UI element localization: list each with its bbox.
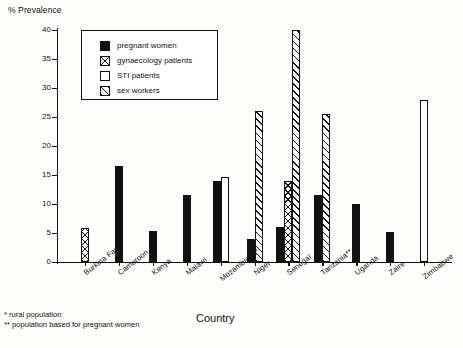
bar [221, 177, 229, 262]
x-axis-tick-mark [255, 262, 256, 266]
legend-swatch-sti-patients-icon [100, 71, 110, 81]
bar-group [247, 30, 263, 262]
y-axis-tick-label: 10 [29, 199, 51, 208]
legend-item-sti-patients: STI patients [100, 68, 217, 83]
y-axis-tick-mark [52, 146, 57, 147]
y-axis-tick-label: 30 [29, 83, 51, 92]
bar [386, 232, 394, 262]
legend-swatch-sex-workers-icon [100, 86, 110, 96]
x-axis-tick-mark [424, 262, 425, 266]
legend-item-gynaecology-patients: gynaecology patients [100, 53, 217, 68]
y-axis-tick-mark [52, 233, 57, 234]
footnote-pregnant-population: ** population based for pregnant women [4, 320, 140, 330]
y-axis-tick-mark [52, 262, 57, 263]
prevalence-bar-chart: % Prevalence 0510152025303540 pregnant w… [0, 0, 463, 348]
bar-group [420, 30, 428, 262]
bar [322, 114, 330, 262]
y-axis-tick-label: 5 [29, 228, 51, 237]
legend-item-sex-workers: sex workers [100, 83, 217, 98]
y-axis-tick-mark [52, 88, 57, 89]
legend-swatch-pregnant-women-icon [100, 41, 110, 51]
bar [314, 195, 322, 262]
y-axis-tick-label: 20 [29, 141, 51, 150]
bar-group [386, 30, 394, 262]
y-axis-tick-mark [52, 30, 57, 31]
legend-swatch-gynaecology-patients-icon [100, 56, 110, 66]
legend-label-gynaecology-patients: gynaecology patients [117, 56, 192, 65]
bar-group [352, 30, 360, 262]
chart-footnotes: * rural population ** population based f… [4, 310, 140, 330]
bar [284, 181, 292, 262]
y-axis-tick-mark [52, 59, 57, 60]
y-axis-tick-mark [52, 117, 57, 118]
legend-label-pregnant-women: pregnant women [117, 41, 177, 50]
y-axis-tick-mark [52, 175, 57, 176]
y-axis-tick-label: 15 [29, 170, 51, 179]
y-axis-tick-label: 25 [29, 112, 51, 121]
y-axis-tick-label: 0 [29, 257, 51, 266]
x-axis-title: Country [196, 312, 235, 324]
y-axis-tick-mark [52, 204, 57, 205]
bar [420, 100, 428, 262]
footnote-rural-population: * rural population [4, 310, 140, 320]
y-axis-title: % Prevalence [8, 5, 62, 15]
legend-label-sti-patients: STI patients [117, 71, 160, 80]
bar [183, 195, 191, 262]
chart-legend: pregnant women gynaecology patients STI … [81, 30, 218, 100]
bar [255, 111, 263, 262]
legend-label-sex-workers: sex workers [117, 86, 160, 95]
bar-group [314, 30, 330, 262]
bar [213, 181, 221, 262]
y-axis-tick-label: 35 [29, 54, 51, 63]
x-axis-tick-mark [221, 262, 222, 266]
bar-group [276, 30, 300, 262]
bar [149, 231, 157, 262]
y-axis-tick-label: 40 [29, 25, 51, 34]
bar [292, 30, 300, 262]
bar [81, 228, 89, 262]
bar [276, 227, 284, 262]
legend-item-pregnant-women: pregnant women [100, 38, 217, 53]
